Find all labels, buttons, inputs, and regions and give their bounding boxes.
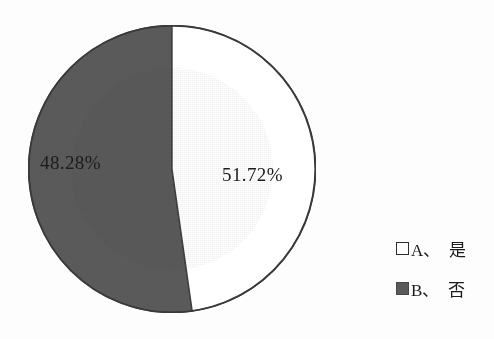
legend-key-a: A、	[411, 236, 440, 261]
legend-item-a[interactable]: A、 是	[396, 236, 490, 260]
legend-item-b[interactable]: B、 否	[396, 276, 490, 300]
legend-label-a: 是	[449, 236, 466, 261]
legend-key-b: B、	[411, 276, 439, 301]
chart-legend: A、 是 B、 否	[396, 236, 490, 316]
chart-canvas: 48.28% 51.72% A、 是 B、 否	[0, 0, 494, 339]
legend-swatch-a-icon	[396, 242, 409, 255]
slice-value-label-b: 48.28%	[40, 152, 101, 174]
legend-swatch-b-icon	[396, 282, 409, 295]
legend-label-b: 否	[448, 276, 465, 301]
slice-value-label-a: 51.72%	[222, 164, 283, 186]
